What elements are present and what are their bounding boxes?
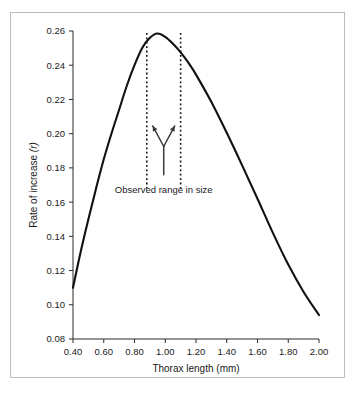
- y-axis-ticks: [69, 31, 73, 339]
- x-tick-label: 2.00: [310, 346, 329, 357]
- observed-range-pointer-icon: [153, 126, 175, 175]
- x-axis-title: Thorax length (mm): [152, 363, 239, 374]
- y-axis-tick-labels: 0.080.100.120.140.160.180.200.220.240.26: [47, 25, 66, 344]
- x-tick-label: 1.60: [248, 346, 267, 357]
- data-curve: [73, 34, 319, 315]
- y-tick-label: 0.18: [47, 162, 66, 173]
- x-tick-label: 1.20: [187, 346, 206, 357]
- figure-frame: 0.080.100.120.140.160.180.200.220.240.26…: [10, 12, 345, 378]
- x-tick-label: 1.80: [279, 346, 298, 357]
- observed-range-label: Observed range in size: [115, 184, 213, 195]
- y-tick-label: 0.08: [47, 333, 66, 344]
- x-tick-label: 0.40: [64, 346, 83, 357]
- x-tick-label: 0.80: [125, 346, 144, 357]
- y-axis-title: Rate of increase (r): [28, 142, 39, 228]
- y-tick-label: 0.24: [47, 60, 66, 71]
- x-axis-ticks: [73, 339, 319, 343]
- y-tick-label: 0.20: [47, 128, 66, 139]
- y-tick-label: 0.12: [47, 265, 66, 276]
- y-tick-label: 0.22: [47, 94, 66, 105]
- y-tick-label: 0.10: [47, 299, 66, 310]
- x-axis-tick-labels: 0.400.600.801.001.201.401.601.802.00: [64, 346, 329, 357]
- y-tick-label: 0.14: [47, 231, 66, 242]
- y-tick-label: 0.26: [47, 25, 66, 36]
- x-tick-label: 0.60: [95, 346, 114, 357]
- chart-plot-area: 0.080.100.120.140.160.180.200.220.240.26…: [11, 13, 344, 377]
- x-tick-label: 1.00: [156, 346, 175, 357]
- y-tick-label: 0.16: [47, 197, 66, 208]
- y-axis-title-text: Rate of increase (r): [28, 142, 39, 228]
- x-tick-label: 1.40: [218, 346, 237, 357]
